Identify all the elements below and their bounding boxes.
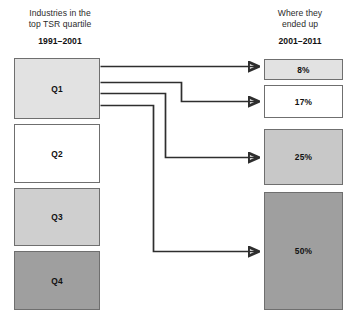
quartile-box-label: Q4 <box>51 276 63 286</box>
quartile-box-q4: Q4 <box>14 251 100 310</box>
quartile-box-label: Q2 <box>51 149 63 159</box>
quartile-box-label: Q1 <box>51 84 63 94</box>
quartile-box-q3: Q3 <box>14 188 100 246</box>
quartile-box-label: Q3 <box>51 212 63 222</box>
quartile-box-q1: Q1 <box>14 58 100 119</box>
outcome-box-label: 25% <box>295 152 312 162</box>
outcome-box-label: 8% <box>297 65 310 75</box>
outcome-box-25: 25% <box>264 129 343 185</box>
outcome-box-label: 50% <box>295 246 312 256</box>
left-column-period: 1991–2001 <box>6 36 114 47</box>
right-column-title-line1: Where they <box>246 8 354 19</box>
outcome-box-label: 17% <box>295 97 312 107</box>
connector-group <box>101 67 259 252</box>
left-column-title-line2: top TSR quartile <box>6 19 114 30</box>
right-column-header: Where they ended up 2001–2011 <box>246 8 354 47</box>
left-column-header: Industries in the top TSR quartile 1991–… <box>6 8 114 47</box>
outcome-box-50: 50% <box>264 192 343 310</box>
quartile-box-q2: Q2 <box>14 124 100 183</box>
flow-arrow-2 <box>101 83 259 102</box>
outcome-box-17: 17% <box>264 85 343 118</box>
outcome-box-8: 8% <box>264 59 343 80</box>
right-column-title-line2: ended up <box>246 19 354 30</box>
left-column-title-line1: Industries in the <box>6 8 114 19</box>
flow-diagram: Industries in the top TSR quartile 1991–… <box>0 0 357 323</box>
flow-arrow-4 <box>101 106 259 252</box>
right-column-period: 2001–2011 <box>246 36 354 47</box>
flow-arrow-3 <box>101 94 259 158</box>
